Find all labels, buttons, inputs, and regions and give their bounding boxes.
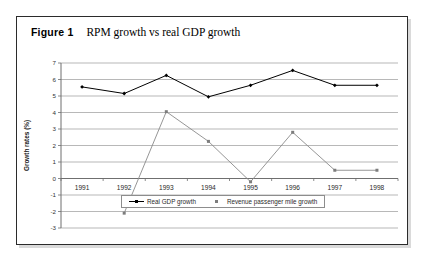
svg-text:1997: 1997 [327,184,342,191]
svg-text:1993: 1993 [159,184,174,191]
figure-frame: Figure 1RPM growth vs real GDP growth 76… [16,16,408,245]
x-axis-category-labels: 19911992199319941995199619971998 [75,184,385,191]
svg-text:3: 3 [53,125,57,132]
svg-text:1994: 1994 [201,184,216,191]
svg-text:1991: 1991 [75,184,90,191]
legend-marker-rpm [209,198,224,205]
figure-label: Figure 1 [31,26,73,38]
svg-text:6: 6 [53,76,57,83]
legend-marker-gdp [129,198,144,205]
svg-text:-2: -2 [50,208,56,215]
svg-text:1998: 1998 [370,184,385,191]
legend-entry-gdp: Real GDP growth [129,198,196,205]
legend-entry-rpm: Revenue passenger mile growth [209,198,317,205]
svg-text:1: 1 [53,158,57,165]
svg-text:7: 7 [53,59,57,66]
svg-text:4: 4 [53,109,57,116]
figure-caption-text: RPM growth vs real GDP growth [86,26,240,38]
svg-text:1996: 1996 [285,184,300,191]
legend-label-gdp: Real GDP growth [147,198,196,205]
line-chart: 76543210-1-2-3 1991199219931994199519961… [17,47,409,244]
legend-label-rpm: Revenue passenger mile growth [227,198,317,205]
figure-caption: Figure 1RPM growth vs real GDP growth [31,26,240,38]
chart-legend: Real GDP growth Revenue passenger mile g… [121,195,325,208]
y-axis-ticks: 76543210-1-2-3 [50,59,61,231]
svg-text:0: 0 [53,175,57,182]
svg-text:1995: 1995 [243,184,258,191]
data-series-group [80,69,379,215]
svg-text:5: 5 [53,92,57,99]
y-axis-title: Growth rates (%) [23,120,31,171]
chart-plot-area: 76543210-1-2-3 1991199219931994199519961… [17,47,409,244]
svg-text:1992: 1992 [117,184,132,191]
svg-text:2: 2 [53,142,57,149]
svg-text:-3: -3 [50,224,56,231]
svg-text:-1: -1 [50,191,56,198]
